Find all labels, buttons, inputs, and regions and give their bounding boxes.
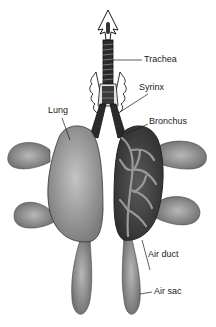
head-outline <box>98 10 118 40</box>
bird-respiratory-diagram <box>0 0 216 327</box>
label-syrinx: Syrinx <box>139 83 164 92</box>
label-air-sac: Air sac <box>154 287 182 296</box>
label-bronchus: Bronchus <box>149 117 187 126</box>
label-air-duct: Air duct <box>148 250 179 259</box>
label-lung: Lung <box>48 106 68 115</box>
left-lung <box>48 126 103 242</box>
right-lung <box>114 126 163 240</box>
syrinx <box>98 84 118 106</box>
label-trachea: Trachea <box>144 55 177 64</box>
trachea <box>103 40 113 84</box>
